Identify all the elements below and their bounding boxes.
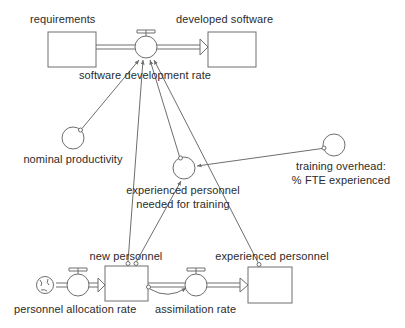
- label-experienced-personnel-needed-line2: needed for training: [136, 198, 230, 211]
- valve-personnel-allocation-rate: [67, 268, 89, 296]
- link-new-personnel-to-assimilation-rate: [147, 285, 187, 294]
- label-experienced-personnel: experienced personnel: [215, 250, 328, 263]
- label-training-overhead-line1: training overhead:: [296, 160, 386, 173]
- label-nominal-productivity: nominal productivity: [23, 153, 122, 166]
- stock-requirements: [48, 32, 96, 67]
- label-training-overhead-line2: % FTE experienced: [292, 174, 390, 187]
- label-requirements: requirements: [30, 13, 95, 26]
- source-cloud-icon: [37, 277, 54, 294]
- label-software-development-rate: software development rate: [79, 69, 211, 82]
- label-personnel-allocation-rate: personnel allocation rate: [14, 303, 136, 316]
- stock-developed-software: [208, 32, 256, 67]
- label-experienced-personnel-needed-line1: experienced personnel: [126, 184, 239, 197]
- valve-software-development-rate: [135, 30, 157, 58]
- stock-experienced-personnel: [248, 267, 292, 303]
- valve-assimilation-rate: [185, 268, 207, 296]
- aux-experienced-personnel-needed-for-training: [173, 157, 195, 179]
- stock-new-personnel: [105, 266, 148, 301]
- label-developed-software: developed software: [176, 13, 273, 26]
- label-new-personnel: new personnel: [90, 250, 163, 263]
- aux-training-overhead: [323, 134, 345, 156]
- link-new-personnel-to-sw-dev-rate: [126, 60, 143, 266]
- diagram-canvas: requirements developed software software…: [0, 0, 405, 328]
- link-experienced-personnel-to-sw-dev-rate: [154, 60, 261, 267]
- label-assimilation-rate: assimilation rate: [155, 303, 236, 316]
